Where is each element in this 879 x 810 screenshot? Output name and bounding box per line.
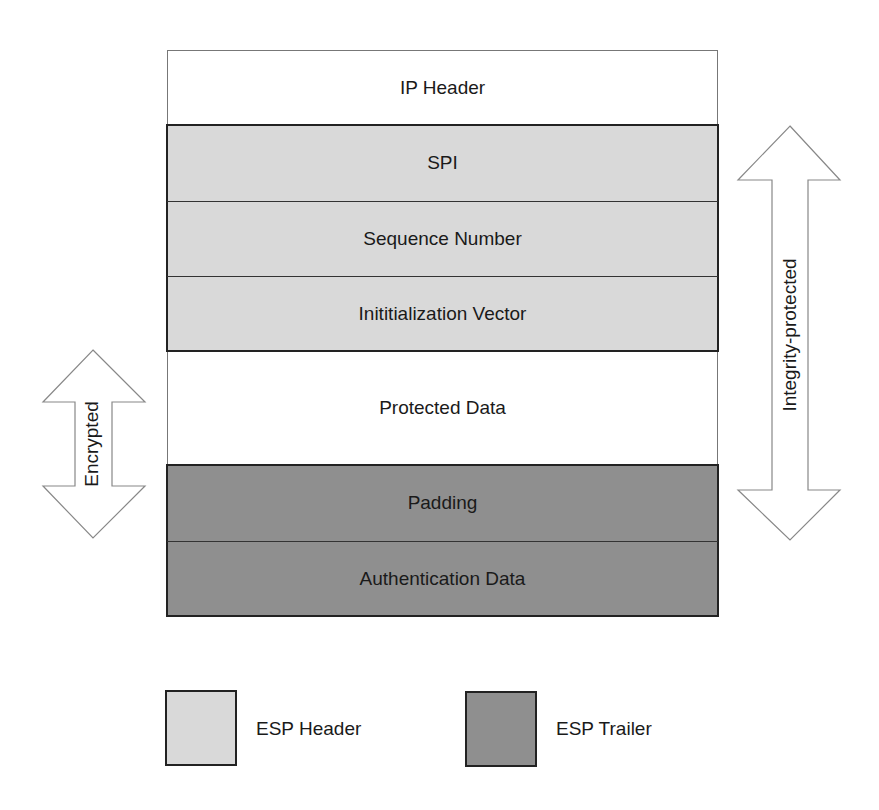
encrypted-label: Encrypted bbox=[81, 401, 103, 487]
legend-swatch-esp-header bbox=[165, 690, 237, 766]
legend-label-esp-header: ESP Header bbox=[256, 718, 361, 740]
legend-label-esp-trailer: ESP Trailer bbox=[556, 718, 652, 740]
integrity-protected-label: Integrity-protected bbox=[779, 258, 801, 411]
arrows-layer bbox=[0, 0, 879, 810]
legend-swatch-esp-trailer bbox=[465, 691, 537, 767]
